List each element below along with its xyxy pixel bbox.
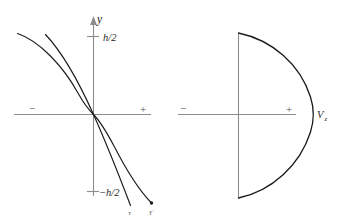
left-plot-negative-sign: − [29, 102, 35, 114]
left-plot-positive-sign: + [140, 103, 146, 115]
figure-root: y h/2 −h/2 − + τ γ̇ − + [0, 0, 339, 222]
tick-label-bottom: −h/2 [99, 187, 120, 198]
shear-rate-curve [18, 34, 152, 203]
left-plot-y-axis-label: y [96, 13, 103, 26]
right-plot-positive-sign: + [286, 103, 292, 115]
shear-rate-endpoint-dot [150, 201, 153, 204]
figure-canvas: y h/2 −h/2 − + τ γ̇ − + [0, 0, 339, 222]
right-plot-negative-sign: − [180, 102, 186, 114]
left-plot: y h/2 −h/2 − + τ γ̇ [14, 13, 154, 216]
shear-stress-curve [46, 35, 131, 206]
velocity-profile-label-subscript: z [324, 115, 328, 122]
shear-rate-curve-label: γ̇ [150, 208, 154, 215]
velocity-profile-curve [239, 33, 314, 198]
right-plot: − + V z [178, 33, 328, 198]
y-axis-arrowhead [90, 16, 97, 25]
tick-label-top: h/2 [103, 32, 117, 43]
shear-stress-curve-label: τ [129, 209, 132, 216]
